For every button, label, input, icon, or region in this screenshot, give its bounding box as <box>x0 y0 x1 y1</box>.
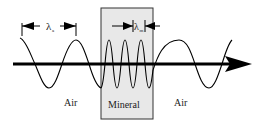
air-left-label: Air <box>64 97 78 108</box>
lambda-air-dimension: λ a <box>22 20 76 36</box>
lambda-mineral-sub: m <box>140 28 144 33</box>
wavelength-diagram: λ a λ m Air Mineral Air <box>0 0 261 128</box>
lambda-air-sub: a <box>52 28 55 33</box>
mineral-label: Mineral <box>108 99 140 110</box>
lambda-mineral-label: λ <box>134 21 139 32</box>
air-right-label: Air <box>174 97 188 108</box>
